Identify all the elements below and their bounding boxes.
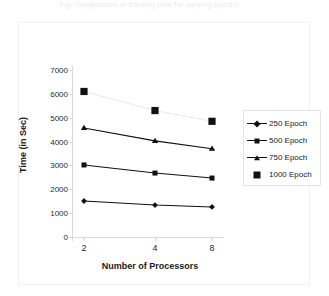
legend-item[interactable]: 1000 Epoch	[247, 166, 317, 183]
series-500-epoch	[82, 162, 215, 180]
data-point	[152, 202, 158, 208]
series-line	[84, 91, 212, 121]
chart-legend: 250 Epoch500 Epoch750 Epoch1000 Epoch	[243, 110, 321, 186]
data-point	[81, 198, 87, 204]
legend-swatch	[254, 155, 260, 160]
data-point	[81, 125, 87, 130]
series-1000-epoch	[80, 88, 215, 125]
legend-swatch	[254, 171, 261, 178]
legend-label: 500 Epoch	[267, 136, 307, 145]
legend-marker-big-square-icon	[247, 169, 267, 181]
legend-marker-diamond-icon	[247, 118, 267, 130]
legend-marker-square-icon	[247, 135, 267, 147]
data-point	[209, 204, 215, 210]
series-line	[84, 128, 212, 149]
data-point	[153, 171, 158, 176]
legend-label: 250 Epoch	[267, 119, 307, 128]
legend-label: 750 Epoch	[267, 153, 307, 162]
series-750-epoch	[81, 125, 215, 151]
series-line	[84, 165, 212, 178]
data-point	[80, 88, 87, 95]
data-point	[208, 118, 215, 125]
legend-swatch	[255, 138, 260, 143]
data-point	[151, 107, 158, 114]
legend-marker-triangle-icon	[247, 152, 267, 164]
series-line	[84, 201, 212, 207]
data-point	[82, 162, 87, 167]
legend-item[interactable]: 500 Epoch	[247, 132, 317, 149]
legend-item[interactable]: 750 Epoch	[247, 149, 317, 166]
data-point	[210, 176, 215, 181]
series-250-epoch	[81, 198, 215, 210]
legend-swatch	[253, 120, 260, 127]
legend-item[interactable]: 250 Epoch	[247, 115, 317, 132]
legend-label: 1000 Epoch	[267, 170, 312, 179]
chart-figure: Fig. Comparison of training time for var…	[0, 0, 329, 296]
